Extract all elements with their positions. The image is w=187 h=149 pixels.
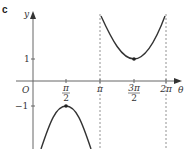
x-axis-label: θ — [178, 85, 184, 95]
x-tick-label-pi-over-2-den: 2 — [63, 93, 69, 103]
min-point-marker — [132, 57, 136, 61]
max-point-marker — [64, 104, 68, 108]
x-tick-label-2pi: 2π — [159, 84, 173, 94]
curve-lower-branch — [41, 106, 91, 149]
y-tick-label-neg1: −1 — [15, 101, 28, 111]
y-tick-label-1: 1 — [24, 54, 30, 64]
panel-label: c — [2, 4, 8, 15]
x-tick-label-pi-over-2-num: π — [62, 83, 70, 93]
x-tick-label-3pi-over-2-num: 3π — [128, 83, 141, 93]
y-axis-label: y — [23, 9, 30, 19]
x-tick-label-pi: π — [96, 84, 104, 94]
cosec-graph: c y θ O 1 −1 π 2 π 3π 2 2π — [0, 0, 187, 149]
x-tick-label-3pi-over-2-den: 2 — [131, 93, 137, 103]
origin-label: O — [22, 85, 30, 95]
y-axis-arrow-icon — [30, 11, 36, 19]
curve-upper-branch — [101, 16, 165, 59]
x-axis-arrow-icon — [174, 78, 182, 84]
